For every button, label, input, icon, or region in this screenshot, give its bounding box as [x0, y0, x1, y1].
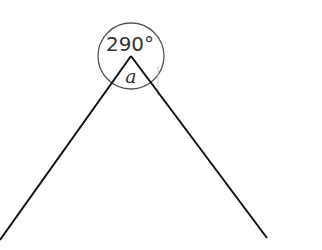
- left-ray: [0, 56, 131, 240]
- angle-diagram: 290° a: [0, 0, 322, 250]
- reflex-angle-label: 290°: [106, 32, 154, 56]
- interior-angle-label: a: [125, 65, 136, 87]
- right-ray: [131, 56, 267, 238]
